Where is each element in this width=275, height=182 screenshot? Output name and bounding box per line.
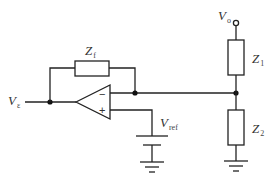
vo-terminal-icon <box>233 20 238 25</box>
inverting-input-sign: − <box>99 88 105 100</box>
label-z2: Z2 <box>252 121 264 138</box>
ground-icon <box>140 162 164 172</box>
label-vref: Vref <box>160 115 178 132</box>
impedance-z1 <box>228 40 244 75</box>
label-z1: Z1 <box>252 51 264 68</box>
feedback-impedance-zf <box>75 61 109 76</box>
impedance-z2 <box>228 110 244 145</box>
feedback-wire-left <box>50 68 75 102</box>
feedback-wire-right <box>109 68 135 93</box>
ground-icon <box>224 161 248 171</box>
label-zf: Zf <box>85 43 96 60</box>
label-v-epsilon: Vε <box>8 93 21 110</box>
noninverting-input-sign: + <box>99 104 105 116</box>
circuit-diagram: − + Zf Vε Vo Z1 Z2 Vref <box>0 0 275 182</box>
label-vo: Vo <box>218 8 231 25</box>
noninverting-wire <box>110 110 152 136</box>
feedback-junction-dot <box>132 90 137 95</box>
